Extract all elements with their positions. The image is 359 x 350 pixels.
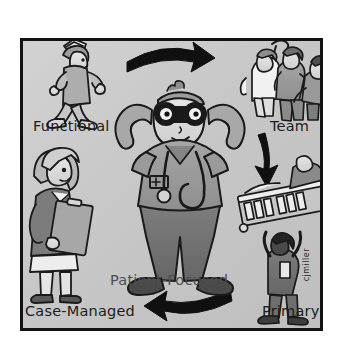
figure-patient-focused bbox=[115, 81, 244, 295]
label-case-managed: Case-Managed bbox=[25, 303, 135, 319]
figure-primary bbox=[228, 151, 338, 325]
label-functional: Functional bbox=[33, 118, 110, 134]
figure-functional bbox=[47, 39, 105, 129]
figure-team bbox=[241, 40, 334, 121]
label-team: Team bbox=[270, 118, 309, 134]
figure-case-managed bbox=[30, 148, 94, 303]
label-primary: Primary bbox=[262, 303, 319, 319]
illustration-artwork bbox=[0, 0, 359, 350]
arrow-right bbox=[255, 133, 278, 187]
artist-signature: cjmiller bbox=[302, 248, 311, 281]
illustration-canvas: Functional Team Case-Managed Primary Pat… bbox=[0, 0, 359, 350]
arrow-top bbox=[127, 42, 215, 72]
label-patient-focused: Patient-Focused bbox=[110, 272, 228, 288]
